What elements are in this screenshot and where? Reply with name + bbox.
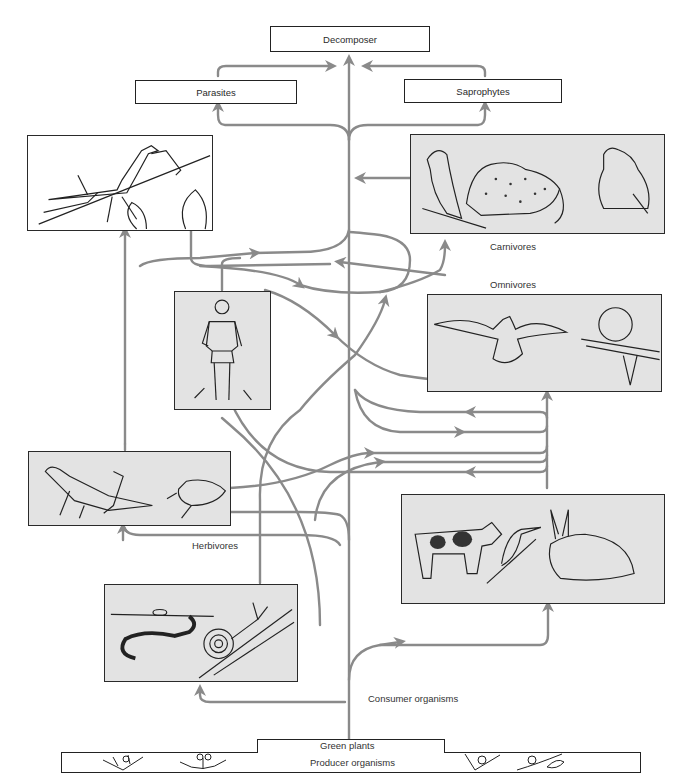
decomposer-label: Decomposer	[323, 34, 377, 45]
omnivores-label: Omnivores	[490, 279, 536, 290]
man-icon	[175, 292, 270, 409]
plant-icon-2	[178, 752, 228, 772]
grasshopper-beetle-icon	[29, 452, 230, 525]
parasites-box: Parasites	[135, 80, 297, 104]
decomposer-box: Decomposer	[270, 26, 430, 52]
herbivores-label: Herbivores	[192, 540, 238, 551]
hawk-leopard-frog-icon	[411, 135, 664, 233]
plant-icon-1	[98, 752, 148, 772]
insects-picture	[28, 451, 231, 526]
soil-picture	[104, 584, 298, 682]
producer-border-left	[61, 752, 258, 753]
carnivores-label: Carnivores	[490, 241, 536, 252]
saprophytes-box: Saprophytes	[404, 79, 562, 103]
herbivores-picture	[401, 494, 665, 604]
consumer-organisms-label: Consumer organisms	[368, 693, 458, 704]
gull-raccoon-icon	[428, 295, 661, 391]
green-plants-label: Green plants	[320, 740, 374, 751]
producer-organisms-label: Producer organisms	[310, 757, 395, 768]
cow-hummingbird-rabbit-icon	[402, 495, 664, 603]
plant-icon-3	[460, 752, 505, 772]
mantis-picture	[27, 135, 213, 231]
human-picture	[174, 291, 271, 410]
plant-icon-4	[512, 752, 567, 772]
saprophytes-label: Saprophytes	[456, 86, 509, 97]
mantis-icon	[28, 136, 212, 230]
worm-snail-icon	[105, 585, 297, 681]
omnivores-picture	[427, 294, 662, 392]
carnivores-picture	[410, 134, 665, 234]
parasites-label: Parasites	[196, 87, 236, 98]
